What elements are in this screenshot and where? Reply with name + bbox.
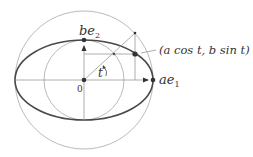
ae1-label: ae1: [159, 72, 180, 89]
angle-label: t: [98, 66, 103, 80]
point-label: (a cos t, b sin t): [159, 43, 250, 57]
be2-point: [82, 38, 87, 43]
origin-point: [82, 78, 87, 83]
be2-arrowhead: [82, 45, 87, 51]
ae1-arrowhead: [143, 78, 149, 83]
origin-label: 0: [77, 84, 83, 94]
ellipse-diagram: be2 ae1 0 t (a cos t, b sin t): [0, 0, 253, 157]
ellipse-point: [132, 51, 137, 56]
be2-label: be2: [79, 23, 100, 40]
outer-circle-point: [134, 32, 137, 35]
ae1-point: [151, 78, 156, 83]
inner-circle-point: [113, 53, 116, 56]
label-leader-line: [141, 50, 156, 53]
